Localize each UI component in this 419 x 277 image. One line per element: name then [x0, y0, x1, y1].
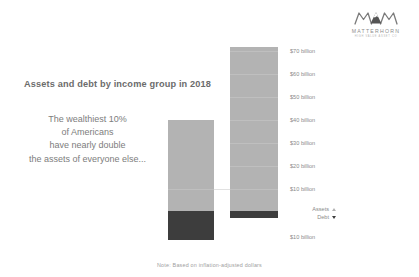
- bar-top10-debt: [230, 211, 278, 218]
- ytick-label-neg10: $10 billion: [290, 234, 315, 240]
- ytick-label-30: $30 billion: [290, 140, 315, 146]
- ytick-label-20: $20 billion: [290, 163, 315, 169]
- ytick-label-40: $40 billion: [290, 117, 315, 123]
- ytick-label-70: $70 billion: [290, 48, 315, 54]
- ytick-label-60: $60 billion: [290, 71, 315, 77]
- ytick-label-10: $10 billion: [290, 186, 315, 192]
- triangle-up-icon: [332, 208, 336, 211]
- gridline-20: [230, 166, 278, 167]
- chart-plot-area: $70 billion $60 billion $50 billion $40 …: [0, 0, 419, 277]
- chart-footnote: Note: Based on inflation-adjusted dollar…: [0, 262, 419, 268]
- gridline-50: [230, 97, 278, 98]
- legend-item-assets: Assets: [290, 206, 336, 214]
- bar-bottom90-debt: [168, 211, 214, 240]
- bar-top10-assets: [230, 47, 278, 211]
- legend-label-debt: Debt: [317, 214, 329, 222]
- gridline-40: [230, 120, 278, 121]
- gridline-60: [230, 74, 278, 75]
- gridline-30: [230, 143, 278, 144]
- legend-label-assets: Assets: [312, 206, 329, 214]
- chart-legend: Assets Debt: [290, 206, 336, 221]
- bar-bottom90-assets: [168, 120, 214, 211]
- infographic-canvas: MATTERHORN HIGH VALUE ASSET CO Assets an…: [0, 0, 419, 277]
- gridline-70: [230, 51, 278, 52]
- ytick-label-50: $50 billion: [290, 94, 315, 100]
- gridline-10: [168, 189, 278, 190]
- triangle-down-icon: [332, 216, 336, 219]
- legend-item-debt: Debt: [290, 214, 336, 222]
